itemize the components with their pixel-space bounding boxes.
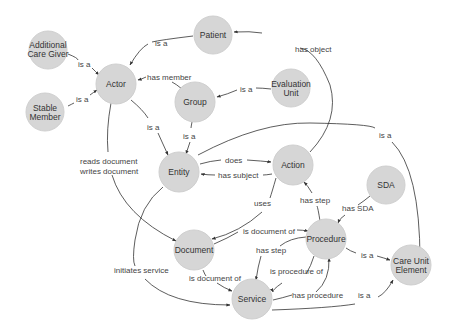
svg-text:Unit: Unit <box>283 88 299 98</box>
node-evaluation-unit[interactable]: Evaluation Unit <box>271 69 311 107</box>
node-care-unit-element[interactable]: Care Unit Element <box>391 245 431 285</box>
node-stable-member[interactable]: Stable Member <box>26 93 64 131</box>
svg-text:Action: Action <box>281 160 305 170</box>
edge-label-procedure-action: has step <box>300 196 331 205</box>
edge-label-action-patient: has object <box>295 45 332 54</box>
svg-text:Procedure: Procedure <box>306 234 345 244</box>
svg-text:Service: Service <box>238 294 267 304</box>
edge-label-group-actor: has member <box>147 73 192 82</box>
edge-label-document-service: is document of <box>189 274 242 283</box>
svg-text:Document: Document <box>175 245 214 255</box>
svg-text:Element: Element <box>395 265 427 275</box>
edge-label-group-entity: is a <box>183 132 196 141</box>
edge-label-procedure-cue: is a <box>361 251 374 260</box>
edge-label-entity-service: initiates service <box>114 266 169 275</box>
node-group[interactable]: Group <box>175 82 215 122</box>
node-additional-care-giver[interactable]: Additional Care Giver <box>27 31 68 69</box>
edge-label-stable-actor: is a <box>76 95 89 104</box>
node-action[interactable]: Action <box>273 145 313 185</box>
edge-label-action-document: uses <box>254 199 271 208</box>
edge-label-service-procedure-of: is procedure of <box>270 267 324 276</box>
svg-text:Member: Member <box>29 112 60 122</box>
edge-label-patient-actor: is a <box>155 39 168 48</box>
edge-label-action-entity: has subject <box>218 171 259 180</box>
svg-text:Actor: Actor <box>106 79 126 89</box>
edge-label-procedure-service-step: has step <box>256 246 287 255</box>
edge-label-eval-group: is a <box>240 85 253 94</box>
svg-text:Entity: Entity <box>168 167 190 177</box>
node-entity[interactable]: Entity <box>159 152 199 192</box>
node-document[interactable]: Document <box>174 230 214 270</box>
node-procedure[interactable]: Procedure <box>306 219 346 259</box>
edge-label-document-procedure: is document of <box>243 227 296 236</box>
edge-label-sda-procedure: has SDA <box>342 204 374 213</box>
node-patient[interactable]: Patient <box>194 16 232 54</box>
edge-label-service-procedure: has procedure <box>292 291 344 300</box>
edge-label-service-cue: is a <box>358 291 371 300</box>
svg-text:Patient: Patient <box>200 30 227 40</box>
svg-text:SDA: SDA <box>377 180 395 190</box>
node-sda[interactable]: SDA <box>367 166 405 204</box>
edge-label-acg-actor: is a <box>78 60 91 69</box>
ontology-diagram: is a is a is a has member is a is a is a… <box>0 0 451 334</box>
edge-label-entity-cue: is a <box>379 131 392 140</box>
node-actor[interactable]: Actor <box>96 64 136 104</box>
svg-text:Group: Group <box>183 97 207 107</box>
node-service[interactable]: Service <box>232 279 272 319</box>
edge-label-actor-entity: is a <box>147 123 160 132</box>
edge-label-entity-action: does <box>225 156 242 165</box>
edge-label-actor-document-2: writes document <box>79 167 139 176</box>
edge-label-actor-document-1: reads document <box>80 157 138 166</box>
svg-text:Care Giver: Care Giver <box>27 49 68 59</box>
